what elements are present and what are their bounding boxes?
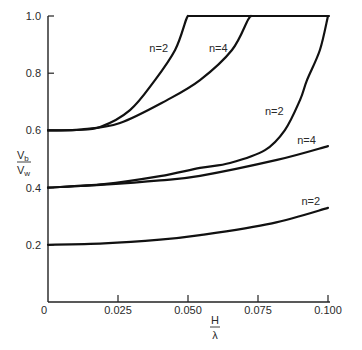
curve-n4-3 (48, 146, 328, 188)
y-label-numerator: Vb (17, 149, 29, 163)
x-tick-label: 0 (41, 304, 47, 316)
curve-n4-1 (48, 16, 251, 130)
x-tick-label: 0.050 (174, 304, 202, 316)
y-tick-label: 0.6 (26, 124, 41, 136)
curve-label: n=2 (301, 195, 320, 207)
x-axis-ticks: 00.0250.0500.0750.100 (41, 295, 342, 316)
y-tick-label: 0.4 (26, 182, 41, 194)
line-chart: 0.20.40.60.81.0 00.0250.0500.0750.100 n=… (0, 0, 362, 350)
curve-label: n=2 (265, 105, 284, 117)
curve-label: n=2 (149, 42, 168, 54)
y-tick-label: 0.8 (26, 67, 41, 79)
y-label-denominator: Vw (17, 164, 30, 178)
x-tick-label: 0.025 (104, 304, 132, 316)
axes (48, 16, 330, 302)
curve-label: n=4 (209, 42, 228, 54)
x-label-denominator: λ (212, 329, 218, 341)
x-tick-label: 0.075 (244, 304, 272, 316)
curve-labels: n=2n=4n=2n=4n=2 (149, 42, 320, 207)
y-tick-label: 0.2 (26, 239, 41, 251)
y-axis-label: Vb Vw (17, 149, 31, 178)
curves (48, 16, 329, 245)
curve-label: n=4 (297, 134, 316, 146)
x-axis-label: H λ (210, 314, 220, 341)
y-tick-label: 1.0 (26, 10, 41, 22)
x-label-numerator: H (211, 314, 219, 326)
x-tick-label: 0.100 (314, 304, 342, 316)
curve-n2-2 (48, 16, 328, 188)
curve-n2-0 (48, 16, 188, 130)
curve-n2-4 (48, 208, 328, 245)
